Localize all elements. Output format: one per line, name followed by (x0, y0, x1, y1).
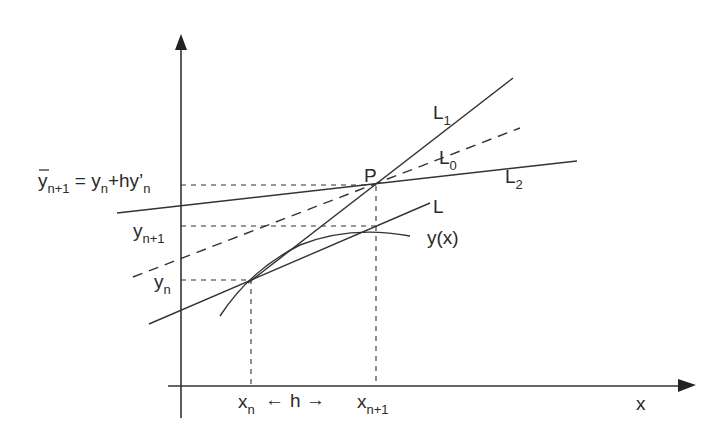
line-L0 (133, 128, 520, 277)
label-step-h: h (290, 390, 301, 411)
step-left-arrow-icon: ← (265, 389, 284, 410)
label-curve: y(x) (427, 227, 459, 248)
label-L1: L1 (433, 102, 451, 128)
label-L2: L2 (505, 166, 523, 192)
tangent-lines (117, 78, 577, 324)
label-point-P: P (364, 165, 377, 186)
label-y-n: yn (154, 271, 171, 297)
y-axis-arrow-icon (175, 34, 187, 50)
step-right-arrow-icon: → (306, 389, 325, 410)
label-x-n: xn (238, 391, 255, 417)
diagram-canvas: L1 L0 L2 L y(x) P yn+1 = yn+hy’n yn+1 yn… (0, 0, 706, 444)
label-x-n1: xn+1 (357, 391, 389, 417)
axes (168, 34, 696, 418)
label-euler-predict: yn+1 = yn+hy’n (38, 170, 151, 196)
line-L (149, 203, 430, 324)
guide-lines (181, 185, 376, 386)
label-L: L (433, 196, 444, 217)
label-x-axis: x (636, 393, 646, 414)
x-axis-arrow-icon (678, 379, 696, 392)
x-tick-labels: xn ← h → xn+1 x (238, 389, 646, 417)
curve-y-of-x (220, 232, 410, 316)
label-L0: L0 (439, 147, 457, 173)
y-tick-labels: yn+1 = yn+hy’n yn+1 yn (38, 170, 171, 297)
label-y-next: yn+1 (133, 220, 165, 246)
